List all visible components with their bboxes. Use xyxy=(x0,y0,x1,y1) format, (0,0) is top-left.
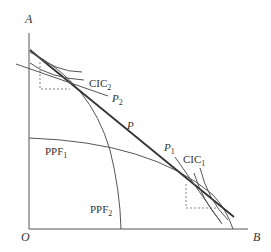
origin-label: O xyxy=(21,230,30,244)
ppf2-label: PPF2 xyxy=(90,203,112,218)
diagram-canvas: A B O CIC2 P2 P P1 CIC1 PPF1 PPF2 xyxy=(0,0,271,252)
x-axis-label: B xyxy=(253,230,261,244)
p-label: P xyxy=(126,119,134,131)
trade-diagram: A B O CIC2 P2 P P1 CIC1 PPF1 PPF2 xyxy=(0,0,271,252)
trade-triangle-country1 xyxy=(186,184,216,208)
cic2-label: CIC2 xyxy=(89,77,111,92)
ppf1-label: PPF1 xyxy=(45,145,67,160)
cic1-label: CIC1 xyxy=(183,153,205,168)
cic1-curve-inner xyxy=(194,173,221,222)
p2-label: P2 xyxy=(111,92,123,107)
price-line-p xyxy=(30,50,234,217)
p1-label: P1 xyxy=(163,141,175,156)
y-axis-label: A xyxy=(24,12,33,26)
